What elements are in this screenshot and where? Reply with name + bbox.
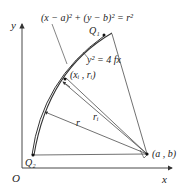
parabola-equation: y² = 4 fx xyxy=(87,55,121,65)
circle-arc xyxy=(34,33,112,155)
y-axis-label: y xyxy=(11,20,16,31)
circle-equation: (x − a)² + (y − b)² = r² xyxy=(41,13,133,23)
diagram-canvas: y x O (x − a)² + (y − b)² = r² y² = 4 fx… xyxy=(0,0,189,188)
q1-label: Q₁ xyxy=(89,26,100,36)
origin-label: O xyxy=(12,173,20,184)
q2-label: Q₂ xyxy=(25,158,36,168)
leader-circle-eq xyxy=(52,24,67,64)
r-label: r xyxy=(76,118,80,128)
center-label: (a , b) xyxy=(152,149,176,159)
x-axis-label: x xyxy=(162,174,167,185)
line-q1-center xyxy=(112,34,147,154)
point-center xyxy=(145,152,148,155)
radius-ri-b xyxy=(66,78,147,154)
point-xi-ri xyxy=(64,78,67,81)
point-q1 xyxy=(103,34,106,37)
ri-label: rᵢ xyxy=(93,112,98,122)
chord-q2-center xyxy=(34,154,147,155)
xi-ri-label: (xᵢ , rᵢ) xyxy=(70,70,96,80)
